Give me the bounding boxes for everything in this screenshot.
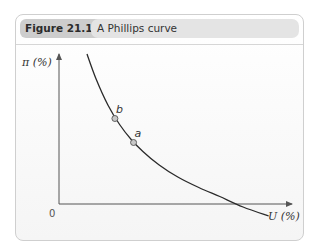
point-label-b: b	[116, 103, 123, 116]
point-b	[112, 116, 118, 122]
point-a	[131, 140, 137, 146]
x-axis-label: U (%)	[268, 210, 300, 223]
phillips-curve-line	[87, 54, 269, 216]
y-axis-label-text: π (%)	[21, 56, 52, 69]
phillips-chart: π (%) U (%) 0 ba	[0, 0, 322, 252]
x-axis-label-text: U (%)	[268, 210, 300, 223]
point-label-a: a	[135, 127, 142, 140]
points-layer: ba	[112, 103, 142, 146]
origin-label: 0	[49, 208, 55, 219]
y-axis-label: π (%)	[21, 56, 52, 69]
